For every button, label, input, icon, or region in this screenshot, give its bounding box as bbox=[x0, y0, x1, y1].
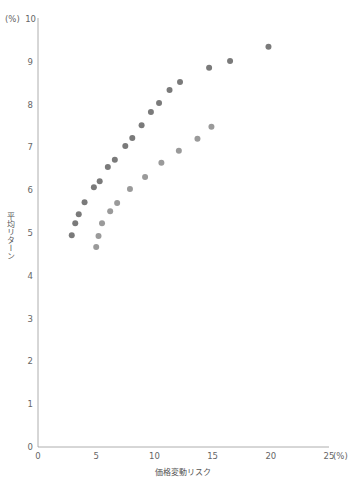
x-tick-label: 15 bbox=[207, 451, 218, 461]
y-axis-title: 平均リターン bbox=[6, 212, 15, 260]
data-point-lower bbox=[96, 233, 102, 239]
data-point-upper bbox=[177, 79, 183, 85]
data-point-lower bbox=[107, 208, 113, 214]
y-axis-unit: (%) bbox=[5, 14, 20, 24]
data-point-upper bbox=[129, 135, 135, 141]
y-tick-label: 4 bbox=[28, 271, 33, 281]
x-tick-label: 10 bbox=[149, 451, 160, 461]
data-point-lower bbox=[114, 200, 120, 206]
data-points bbox=[69, 44, 272, 250]
data-point-lower bbox=[127, 186, 133, 192]
data-point-lower bbox=[99, 220, 105, 226]
data-point-upper bbox=[265, 44, 271, 50]
scatter-chart: 012345678910 0510152025 (%) (%) 価格変動リスク … bbox=[0, 0, 353, 484]
y-tick-label: 10 bbox=[25, 14, 36, 24]
y-axis-ticks: 012345678910 bbox=[25, 14, 36, 452]
data-point-upper bbox=[105, 164, 111, 170]
data-point-upper bbox=[112, 157, 118, 163]
data-point-lower bbox=[176, 148, 182, 154]
y-tick-label: 7 bbox=[28, 142, 33, 152]
y-tick-label: 3 bbox=[28, 314, 33, 324]
x-axis-ticks: 0510152025 bbox=[35, 451, 334, 461]
data-point-upper bbox=[156, 100, 162, 106]
y-tick-label: 6 bbox=[28, 185, 33, 195]
data-point-lower bbox=[194, 136, 200, 142]
data-point-lower bbox=[142, 174, 148, 180]
data-point-lower bbox=[158, 160, 164, 166]
data-point-upper bbox=[69, 232, 75, 238]
data-point-lower bbox=[93, 244, 99, 250]
y-tick-label: 5 bbox=[28, 228, 33, 238]
data-point-upper bbox=[82, 199, 88, 205]
data-point-upper bbox=[91, 184, 97, 190]
data-point-lower bbox=[208, 124, 214, 130]
data-point-upper bbox=[122, 143, 128, 149]
data-point-upper bbox=[206, 65, 212, 71]
data-point-upper bbox=[139, 122, 145, 128]
x-axis-title: 価格変動リスク bbox=[155, 467, 211, 477]
data-point-upper bbox=[97, 178, 103, 184]
y-tick-label: 0 bbox=[28, 442, 33, 452]
y-tick-label: 2 bbox=[28, 356, 33, 366]
data-point-upper bbox=[148, 109, 154, 115]
x-tick-label: 0 bbox=[35, 451, 40, 461]
data-point-upper bbox=[167, 87, 173, 93]
data-point-upper bbox=[227, 58, 233, 64]
data-point-upper bbox=[76, 211, 82, 217]
x-tick-label: 20 bbox=[265, 451, 276, 461]
y-tick-label: 9 bbox=[28, 57, 33, 67]
y-tick-label: 1 bbox=[28, 399, 33, 409]
data-point-upper bbox=[72, 220, 78, 226]
x-axis-unit: (%) bbox=[333, 451, 348, 461]
y-tick-label: 8 bbox=[28, 100, 33, 110]
x-tick-label: 5 bbox=[93, 451, 98, 461]
